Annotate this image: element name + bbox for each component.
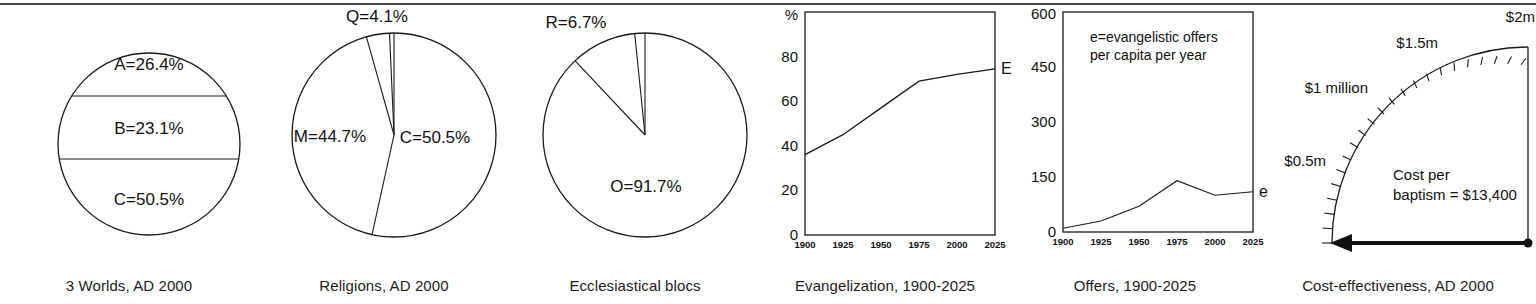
gauge-scale-label-0-5m: $0.5m (1284, 152, 1326, 169)
y-tick-450: 450 (1031, 58, 1056, 75)
slice-label-a: A=26.4% (114, 55, 183, 74)
plot-frame (805, 12, 995, 235)
panel-cost-effectiveness: $0.5m $1 million $1.5m $2m Cost per bapt… (1260, 0, 1536, 304)
panel-evangelization: % 0 20 40 60 80 1900 1925 1950 1975 2000… (760, 0, 1010, 304)
religions-pie-chart: Q=4.1% M=44.7% C=50.5% (258, 0, 510, 270)
slice-label-m: M=44.7% (294, 127, 366, 146)
panel-caption: Offers, 1900-2025 (1010, 277, 1260, 294)
pie-divider-r (575, 61, 645, 135)
panel-caption: 3 Worlds, AD 2000 (0, 277, 258, 294)
y-axis-unit-label: % (785, 6, 798, 23)
slice-label-r: R=6.7% (546, 13, 607, 32)
chart-annotation-line2: per capita per year (1090, 47, 1207, 63)
three-worlds-band-circle: A=26.4% B=23.1% C=50.5% (0, 0, 258, 270)
pie-divider-m (372, 135, 394, 236)
series-line-E (805, 69, 995, 155)
y-tick-40: 40 (781, 137, 798, 154)
evangelization-line-chart: % 0 20 40 60 80 1900 1925 1950 1975 2000… (760, 0, 1010, 270)
x-tick-1900: 1900 (794, 239, 815, 250)
offers-line-chart: 0 150 300 450 600 1900 1925 1950 1975 20… (1010, 0, 1260, 270)
panel-caption: Religions, AD 2000 (258, 277, 510, 294)
y-tick-60: 60 (781, 92, 798, 109)
x-tick-1975: 1975 (908, 239, 930, 250)
y-tick-300: 300 (1031, 113, 1056, 130)
gauge-arc (1332, 47, 1528, 243)
panel-offers: 0 150 300 450 600 1900 1925 1950 1975 20… (1010, 0, 1260, 304)
x-tick-2025: 2025 (984, 239, 1006, 250)
gauge-scale-label-1m: $1 million (1305, 79, 1368, 96)
panel-three-worlds: A=26.4% B=23.1% C=50.5% 3 Worlds, AD 200… (0, 0, 258, 304)
x-tick-1925: 1925 (832, 239, 854, 250)
slice-label-b: B=23.1% (114, 119, 183, 138)
statistical-figure-panel: A=26.4% B=23.1% C=50.5% 3 Worlds, AD 200… (0, 0, 1536, 304)
y-tick-150: 150 (1031, 168, 1056, 185)
pie-divider-sliver (635, 34, 645, 136)
slice-label-o: O=91.7% (610, 177, 681, 196)
slice-label-q: Q=4.1% (346, 7, 408, 26)
x-tick-1925: 1925 (1090, 236, 1112, 247)
x-tick-1950: 1950 (1128, 236, 1149, 247)
slice-label-c: C=50.5% (114, 190, 184, 209)
chart-annotation-line1: e=evangelistic offers (1090, 29, 1218, 45)
panel-caption: Ecclesiastical blocs (510, 277, 760, 294)
x-tick-2000: 2000 (1204, 236, 1225, 247)
panel-religions: Q=4.1% M=44.7% C=50.5% Religions, AD 200… (258, 0, 510, 304)
x-tick-1900: 1900 (1052, 236, 1073, 247)
y-tick-600: 600 (1031, 5, 1056, 22)
y-tick-20: 20 (781, 181, 798, 198)
slice-label-c: C=50.5% (400, 128, 470, 147)
gauge-scale-label-2m: $2m (1506, 8, 1535, 25)
x-tick-1950: 1950 (870, 239, 891, 250)
y-tick-80: 80 (781, 48, 798, 65)
x-tick-1975: 1975 (1166, 236, 1188, 247)
panel-caption: Cost-effectiveness, AD 2000 (1260, 277, 1536, 294)
panel-ecclesiastical-blocs: R=6.7% O=91.7% Ecclesiastical blocs (510, 0, 760, 304)
panel-caption: Evangelization, 1900-2025 (760, 277, 1010, 294)
cost-effectiveness-gauge: $0.5m $1 million $1.5m $2m Cost per bapt… (1260, 0, 1536, 270)
gauge-note-line2: baptism = $13,400 (1393, 186, 1517, 203)
gauge-scale-label-1-5m: $1.5m (1396, 34, 1438, 51)
plot-frame (1063, 12, 1253, 232)
series-line-e (1063, 181, 1253, 229)
ecclesiastical-pie-chart: R=6.7% O=91.7% (510, 0, 760, 270)
gauge-needle (1330, 234, 1533, 252)
gauge-note-line1: Cost per (1393, 166, 1450, 183)
x-tick-2000: 2000 (946, 239, 967, 250)
